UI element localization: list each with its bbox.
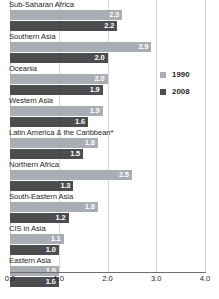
bar-row: 2.2	[10, 21, 205, 31]
bar-group: CIS in Asia1.11.0	[10, 224, 205, 255]
bar-value-label: 1.5	[70, 149, 80, 159]
legend-swatch-icon	[160, 89, 166, 95]
bar-row: 1.6	[10, 117, 205, 127]
bar-row: 2.9	[10, 42, 205, 52]
bar-2008: 2.0	[10, 53, 108, 63]
bar-value-label: 1.8	[85, 202, 95, 212]
bar-2008: 1.9	[10, 85, 103, 95]
bar-value-label: 2.5	[119, 170, 129, 180]
x-tick-label: 0.0	[5, 274, 16, 283]
bar-1990: 2.3	[10, 10, 122, 20]
category-label: Northern Africa	[9, 160, 205, 170]
bar-group: Northern Africa2.51.3	[10, 160, 205, 191]
bar-value-label: 1.2	[56, 213, 66, 223]
plot-area: Sub-Saharan Africa2.32.2Southern Asia2.9…	[10, 0, 205, 272]
bar-chart: Sub-Saharan Africa2.32.2Southern Asia2.9…	[0, 0, 219, 299]
bar-row: 1.2	[10, 213, 205, 223]
bar-2008: 2.2	[10, 21, 117, 31]
category-label: Western Asia	[9, 96, 205, 106]
bar-groups: Sub-Saharan Africa2.32.2Southern Asia2.9…	[10, 0, 205, 288]
x-axis-ticks: 0.01.02.03.04.0	[10, 274, 205, 288]
bar-value-label: 1.0	[46, 245, 56, 255]
bar-value-label: 2.0	[95, 53, 105, 63]
bar-row: 1.1	[10, 234, 205, 244]
bar-row: 2.5	[10, 170, 205, 180]
bar-row: 1.5	[10, 149, 205, 159]
bar-2008: 1.2	[10, 213, 69, 223]
bar-row: 1.8	[10, 138, 205, 148]
bar-row: 1.0	[10, 245, 205, 255]
bar-group: Western Asia1.91.6	[10, 96, 205, 127]
bar-value-label: 1.1	[51, 234, 61, 244]
x-tick-label: 3.0	[151, 274, 162, 283]
bar-value-label: 2.9	[138, 42, 148, 52]
bar-value-label: 2.3	[109, 10, 119, 20]
bar-row: 2.3	[10, 10, 205, 20]
x-axis-line	[10, 272, 206, 273]
bar-value-label: 1.8	[85, 138, 95, 148]
bar-group: Sub-Saharan Africa2.32.2	[10, 0, 205, 31]
bar-value-label: 1.9	[90, 106, 100, 116]
gridline	[205, 0, 206, 272]
category-label: Southern Asia	[9, 32, 205, 42]
bar-row: 1.8	[10, 202, 205, 212]
category-label: Latin America & the Caribbean*	[9, 128, 205, 138]
bar-1990: 2.5	[10, 170, 132, 180]
category-label: Eastern Asia	[9, 256, 205, 266]
bar-row: 1.3	[10, 181, 205, 191]
bar-2008: 1.0	[10, 245, 59, 255]
bar-group: Southern Asia2.92.0	[10, 32, 205, 63]
bar-1990: 2.9	[10, 42, 151, 52]
bar-value-label: 2.0	[95, 74, 105, 84]
bar-group: Latin America & the Caribbean*1.81.5	[10, 128, 205, 159]
legend-label: 2008	[172, 87, 190, 96]
bar-1990: 1.9	[10, 106, 103, 116]
category-label: South-Eastern Asia	[9, 192, 205, 202]
category-label: Sub-Saharan Africa	[9, 0, 205, 10]
bar-value-label: 1.9	[90, 85, 100, 95]
bar-value-label: 1.3	[60, 181, 70, 191]
bar-1990: 1.8	[10, 202, 98, 212]
bar-1990: 1.8	[10, 138, 98, 148]
bar-row: 2.0	[10, 53, 205, 63]
bar-2008: 1.3	[10, 181, 73, 191]
x-tick-label: 4.0	[200, 274, 211, 283]
bar-1990: 1.1	[10, 234, 64, 244]
bar-row: 1.9	[10, 106, 205, 116]
bar-group: South-Eastern Asia1.81.2	[10, 192, 205, 223]
category-label: CIS in Asia	[9, 224, 205, 234]
bar-1990: 2.0	[10, 74, 108, 84]
category-label: Oceania	[9, 64, 205, 74]
x-tick-label: 2.0	[102, 274, 113, 283]
bar-value-label: 2.2	[104, 21, 114, 31]
bar-2008: 1.6	[10, 117, 88, 127]
bar-2008: 1.5	[10, 149, 83, 159]
bar-value-label: 1.6	[75, 117, 85, 127]
x-tick-label: 1.0	[53, 274, 64, 283]
